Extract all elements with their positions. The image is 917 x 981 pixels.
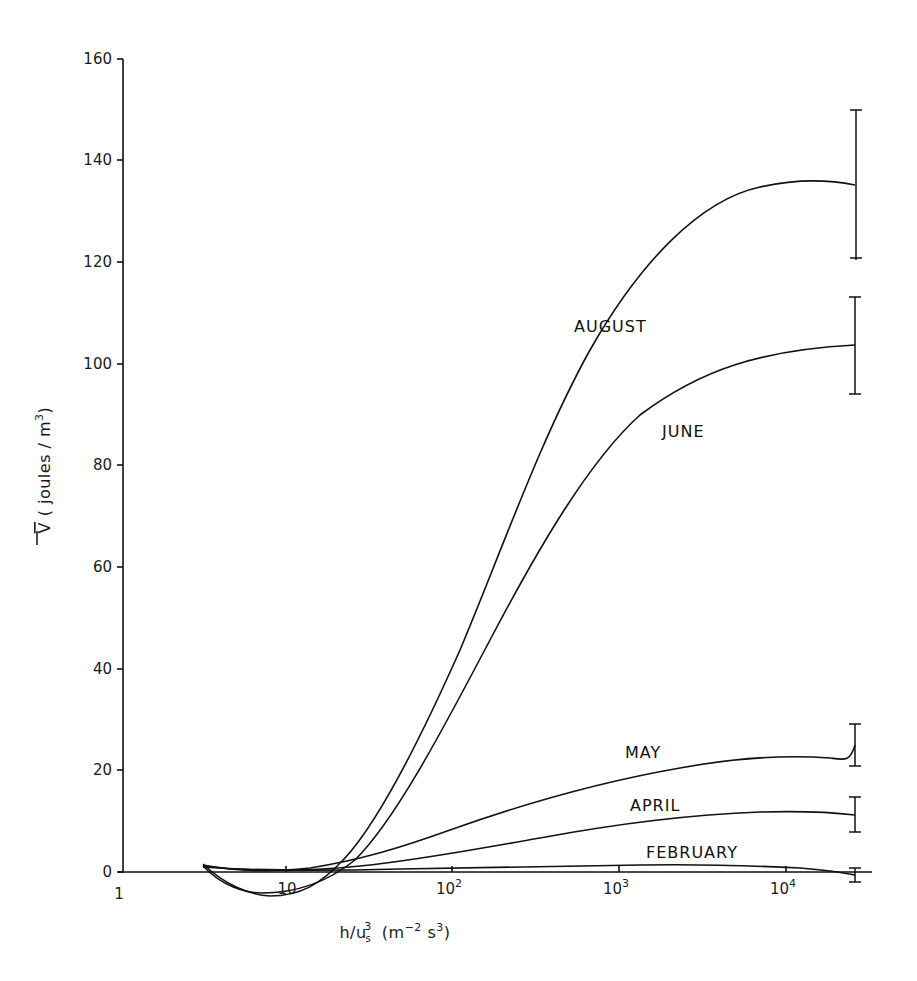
label-august: AUGUST (574, 317, 647, 336)
y-tick-140: 140 (83, 151, 112, 169)
x-tick-1000: 103 (603, 877, 629, 898)
y-tick-labels: 0 20 40 60 80 100 120 140 160 (83, 50, 112, 881)
y-tick-120: 120 (83, 253, 112, 271)
y-tick-100: 100 (83, 355, 112, 373)
x-tick-1: 1 (114, 885, 124, 903)
y-tick-160: 160 (83, 50, 112, 68)
series-may-curve (203, 745, 855, 871)
y-tick-0: 0 (102, 863, 112, 881)
label-may: MAY (625, 743, 661, 762)
series-april-curve (203, 812, 855, 871)
label-april: APRIL (630, 796, 680, 815)
x-tick-100: 102 (436, 877, 462, 898)
y-tick-40: 40 (93, 660, 112, 678)
x-tick-labels: 1 10 102 103 104 (114, 877, 796, 903)
y-tick-80: 80 (93, 456, 112, 474)
series-february-curve (203, 865, 855, 875)
y-ticks (117, 59, 123, 872)
label-february: FEBRUARY (646, 843, 738, 862)
series-june-curve (203, 345, 855, 893)
label-june: JUNE (661, 422, 705, 441)
x-tick-10000: 104 (770, 877, 796, 898)
error-bar-may (849, 724, 861, 766)
chart: 0 20 40 60 80 100 120 140 160 1 10 102 1… (0, 0, 917, 981)
series-august-curve (203, 181, 855, 896)
svg-text:V ( joules / m3): V ( joules / m3) (33, 407, 54, 534)
x-axis-label: h/us3(m−2 s3) (339, 920, 450, 944)
y-tick-20: 20 (93, 761, 112, 779)
y-tick-60: 60 (93, 558, 112, 576)
y-axis-label: V ( joules / m3) (33, 407, 54, 534)
